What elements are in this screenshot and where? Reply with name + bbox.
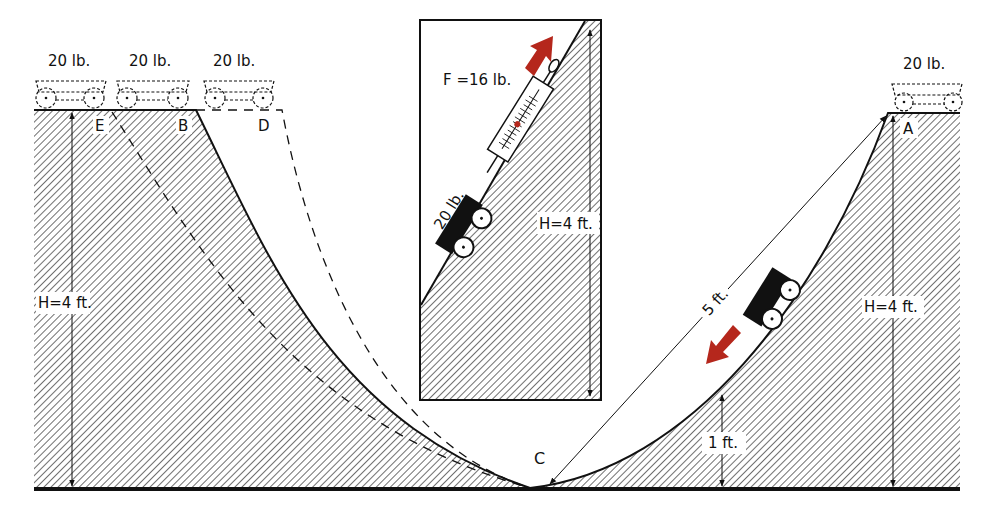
weight-label-A: 20 lb. (903, 55, 945, 73)
right-height-label: H=4 ft. (864, 298, 918, 316)
cart-A-outline (892, 84, 962, 111)
roller-coaster-diagram: 20 lb. 20 lb. 20 lb. E B D H=4 ft. C 20 … (0, 0, 995, 514)
point-label-E: E (95, 117, 104, 135)
weight-label-D: 20 lb. (213, 52, 255, 70)
cart-D-outline (204, 81, 274, 108)
cart-B-outline (117, 81, 189, 108)
weight-label-E: 20 lb. (48, 52, 90, 70)
one-foot-label: 1 ft. (708, 434, 738, 452)
inclined-plane-inset: H=4 ft. 20 lb. (420, 20, 601, 400)
red-arrow-down-slope-icon (706, 325, 741, 364)
point-label-D: D (258, 117, 270, 135)
point-label-C: C (534, 449, 545, 468)
left-height-label: H=4 ft. (38, 294, 92, 312)
force-label: F =16 lb. (443, 71, 511, 89)
point-label-A: A (903, 120, 914, 138)
cart-E-outline (36, 81, 106, 108)
weight-label-B: 20 lb. (129, 52, 171, 70)
inset-height-label: H=4 ft. (539, 215, 593, 233)
point-label-B: B (178, 117, 188, 135)
